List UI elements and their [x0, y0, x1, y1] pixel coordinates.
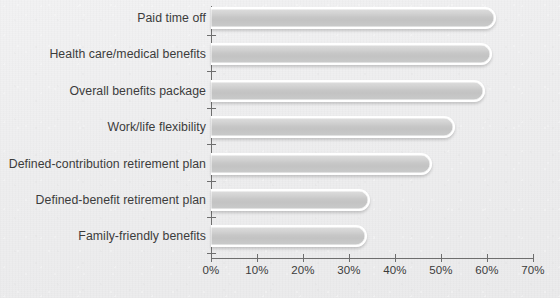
bar-container	[211, 153, 432, 175]
category-label: Overall benefits package	[0, 80, 206, 102]
bar-container	[211, 225, 367, 247]
bar	[211, 153, 432, 175]
category-label: Paid time off	[0, 7, 206, 29]
category-label: Family-friendly benefits	[0, 225, 206, 247]
bar	[211, 189, 370, 211]
x-tick-label: 50%	[418, 264, 464, 276]
bar-row: Paid time off	[0, 7, 560, 43]
category-label: Health care/medical benefits	[0, 43, 206, 65]
bar-container	[211, 116, 455, 138]
bar-row: Family-friendly benefits	[0, 225, 560, 261]
bar-row: Defined-benefit retirement plan	[0, 189, 560, 225]
bar	[211, 116, 455, 138]
plot-area: 0%10%20%30%40%50%60%70% Paid time offHea…	[0, 0, 560, 298]
x-tick-label: 0%	[188, 264, 234, 276]
x-tick-label: 40%	[372, 264, 418, 276]
bar-container	[211, 7, 496, 29]
bar-container	[211, 189, 370, 211]
bar	[211, 7, 496, 29]
category-label: Work/life flexibility	[0, 116, 206, 138]
bar	[211, 225, 367, 247]
bar-row: Work/life flexibility	[0, 116, 560, 152]
x-tick-label: 20%	[280, 264, 326, 276]
x-tick-label: 10%	[234, 264, 280, 276]
bar	[211, 80, 485, 102]
bar-row: Overall benefits package	[0, 80, 560, 116]
x-tick-label: 30%	[326, 264, 372, 276]
benefits-satisfaction-bar-chart: 0%10%20%30%40%50%60%70% Paid time offHea…	[0, 0, 560, 298]
bar	[211, 43, 492, 65]
category-label: Defined-benefit retirement plan	[0, 189, 206, 211]
x-tick-label: 60%	[464, 264, 510, 276]
category-label: Defined-contribution retirement plan	[0, 153, 206, 175]
bar-container	[211, 43, 492, 65]
bar-container	[211, 80, 485, 102]
bar-row: Defined-contribution retirement plan	[0, 153, 560, 189]
bar-row: Health care/medical benefits	[0, 43, 560, 79]
x-tick-label: 70%	[510, 264, 556, 276]
